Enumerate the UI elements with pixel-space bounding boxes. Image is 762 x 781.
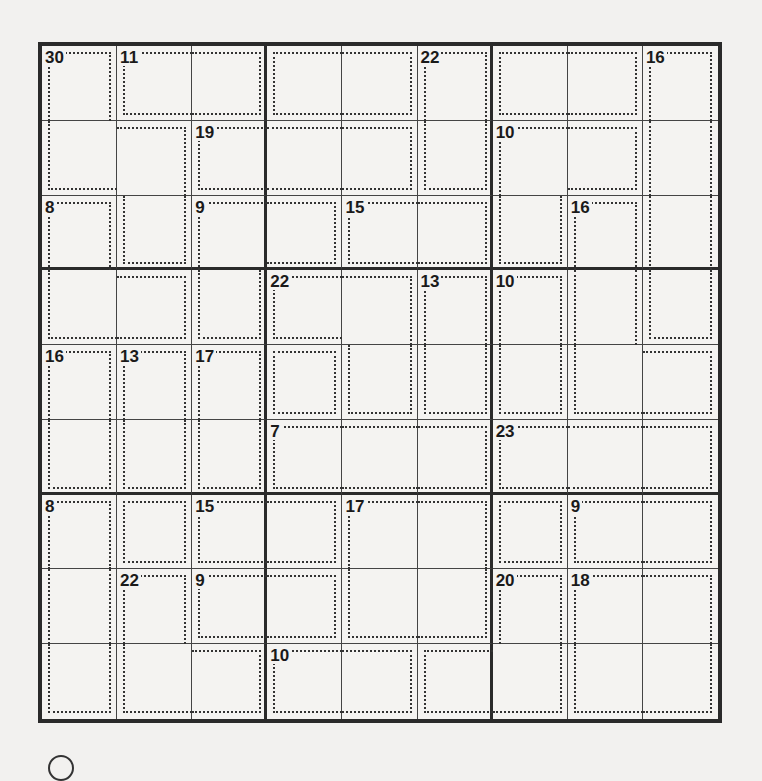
cage-sum: 16 xyxy=(646,49,667,66)
cage-sum: 7 xyxy=(270,423,281,440)
cage-outline xyxy=(649,121,712,196)
cage-outline xyxy=(48,270,117,339)
cage-sum: 11 xyxy=(120,49,140,66)
cage-sum: 22 xyxy=(270,273,291,290)
cage-outline xyxy=(568,127,637,190)
cage-outline xyxy=(643,644,712,713)
cage-outline xyxy=(117,127,186,196)
cage-outline xyxy=(643,501,712,564)
cage-outline xyxy=(568,426,643,489)
cage-outline xyxy=(48,420,111,489)
cage-outline xyxy=(273,426,342,489)
cage-outline xyxy=(123,501,186,564)
killer-sudoku-board: 3011221619108915162213101613177238151792… xyxy=(38,42,722,723)
cage-outline xyxy=(123,420,186,489)
cage-outline xyxy=(574,270,637,345)
cage-outline xyxy=(267,501,336,564)
cage-outline xyxy=(267,202,336,265)
cage-sum: 16 xyxy=(571,199,592,216)
cage-outline xyxy=(342,650,411,713)
cage-outline xyxy=(48,501,111,570)
cage-outline xyxy=(48,121,117,190)
cage-sum: 22 xyxy=(120,572,141,589)
cage-sum: 13 xyxy=(421,273,442,290)
cage-outline xyxy=(342,276,411,345)
circle-icon xyxy=(48,755,74,781)
cage-outline xyxy=(198,202,267,271)
cage-outline xyxy=(424,650,493,713)
cage-sum: 9 xyxy=(195,199,206,216)
cage-outline xyxy=(499,196,562,265)
cage-outline xyxy=(117,276,186,339)
cage-outline xyxy=(499,52,568,115)
cage-outline xyxy=(192,650,261,713)
cage-outline xyxy=(574,501,643,564)
cage-outline xyxy=(424,345,487,414)
cage-outline xyxy=(418,569,487,638)
cage-outline xyxy=(424,121,487,190)
cage-outline xyxy=(649,196,712,271)
cage-sum: 23 xyxy=(496,423,517,440)
cage-outline xyxy=(493,644,562,713)
cage-outline xyxy=(643,426,712,489)
cage-outline xyxy=(643,351,712,414)
cage-outline xyxy=(342,127,411,190)
cage-outline xyxy=(267,575,336,638)
cage-sum: 8 xyxy=(45,199,56,216)
cage-outline xyxy=(273,52,342,115)
cage-outline xyxy=(267,127,342,190)
cage-outline xyxy=(192,52,261,115)
cage-outline xyxy=(342,426,417,489)
cage-sum: 9 xyxy=(571,498,582,515)
cage-outline xyxy=(418,501,487,570)
cage-sum: 17 xyxy=(195,348,216,365)
cage-outline xyxy=(123,196,186,265)
cage-outline xyxy=(123,644,192,713)
cage-sum: 13 xyxy=(120,348,141,365)
cage-outline xyxy=(499,501,562,564)
cage-outline xyxy=(48,569,111,644)
cage-sum: 10 xyxy=(496,273,517,290)
cage-outline xyxy=(198,270,261,339)
cage-outline xyxy=(649,270,712,339)
cage-outline xyxy=(418,426,487,489)
cage-outline xyxy=(198,575,267,638)
cage-outline xyxy=(48,202,111,271)
cage-sum: 10 xyxy=(496,124,517,141)
cage-outline xyxy=(574,345,643,414)
cage-outline xyxy=(48,644,111,713)
cage-outline xyxy=(342,52,411,115)
cage-outline xyxy=(574,644,643,713)
cage-sum: 30 xyxy=(45,49,66,66)
cage-sum: 16 xyxy=(45,348,66,365)
cage-sum: 20 xyxy=(496,572,517,589)
cage-outline xyxy=(643,575,712,644)
cage-sum: 10 xyxy=(270,647,291,664)
cage-sum: 15 xyxy=(195,498,216,515)
cage-sum: 15 xyxy=(345,199,366,216)
cage-outline xyxy=(348,345,411,414)
cage-outline xyxy=(418,202,487,265)
cage-outline xyxy=(568,52,637,115)
cage-sum: 19 xyxy=(195,124,216,141)
cage-sum: 9 xyxy=(195,572,206,589)
cage-outline xyxy=(348,569,417,638)
cage-sum: 18 xyxy=(571,572,592,589)
cage-outline xyxy=(198,420,261,489)
cage-sum: 17 xyxy=(345,498,366,515)
cage-outline xyxy=(273,351,336,414)
cage-sum: 8 xyxy=(45,498,56,515)
cage-outline xyxy=(499,345,562,414)
cage-sum: 22 xyxy=(421,49,442,66)
